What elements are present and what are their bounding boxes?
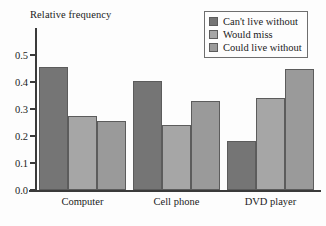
bar [256, 98, 285, 190]
y-axis-tick-label: 0.4 [15, 77, 28, 88]
y-axis-tick-label: 0.3 [15, 104, 28, 115]
bar [97, 121, 126, 190]
chart-legend: Can't live withoutWould missCould live w… [204, 11, 308, 58]
y-axis-tick-label: 0.5 [15, 50, 28, 61]
bar [162, 125, 191, 190]
y-axis-tick-label: 0.0 [15, 185, 28, 196]
bar [68, 116, 97, 190]
legend-item-label: Would miss [223, 29, 273, 41]
bar [39, 67, 68, 190]
bar [227, 141, 256, 190]
x-axis-line [29, 190, 321, 192]
legend-item-label: Could live without [223, 42, 302, 54]
y-axis-tick-label: 0.1 [15, 158, 28, 169]
bar-chart: Relative frequency 0.00.10.20.30.40.5 Co… [0, 0, 326, 226]
y-axis-tick-label: 0.2 [15, 131, 28, 142]
legend-item: Would miss [209, 28, 302, 41]
bar [191, 101, 220, 190]
legend-item: Could live without [209, 41, 302, 54]
legend-swatch-icon [209, 17, 218, 26]
legend-swatch-icon [209, 30, 218, 39]
x-axis-category-label: Cell phone [154, 196, 200, 207]
legend-item: Can't live without [209, 15, 302, 28]
x-axis-category-label: Computer [61, 196, 103, 207]
bar [133, 81, 162, 190]
y-axis-title: Relative frequency [30, 9, 111, 20]
bar [285, 69, 314, 191]
x-axis-category-label: DVD player [245, 196, 297, 207]
legend-item-label: Can't live without [223, 16, 298, 28]
legend-swatch-icon [209, 43, 218, 52]
plot-area [36, 55, 318, 190]
